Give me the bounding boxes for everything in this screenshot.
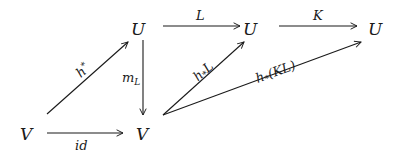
label-m-l: mL (122, 70, 140, 87)
label-id: id (75, 138, 87, 153)
label-l: L (195, 8, 205, 23)
node-v-mid: V (136, 124, 150, 144)
label-h-l: h*L (190, 58, 217, 84)
node-u-right: U (368, 19, 383, 39)
label-k: K (312, 8, 324, 23)
node-v-left: V (20, 124, 34, 144)
node-u-mid: U (243, 19, 258, 39)
label-h-kl: h*(KL) (253, 58, 297, 87)
node-u-left: U (131, 19, 146, 39)
commutative-diagram: U U U V V h* mL L K h*L h*(KL) id (0, 0, 400, 153)
arrow-h-star (47, 42, 128, 114)
label-h-star: h* (72, 60, 93, 81)
